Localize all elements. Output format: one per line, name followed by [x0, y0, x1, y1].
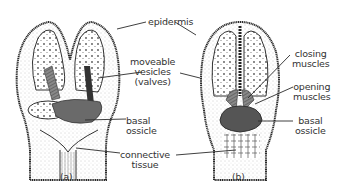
- label-closing-muscles-line2: muscles: [292, 59, 329, 69]
- caption-a: (a): [60, 172, 73, 182]
- panel-b-drawing: [201, 22, 279, 180]
- label-basal-ossicle-b-line2: ossicle: [295, 126, 326, 136]
- label-moveable-vesicles: moveable vesicles (valves): [130, 57, 175, 87]
- label-opening-muscles-line2: muscles: [293, 92, 330, 102]
- label-basal-ossicle-b: basal ossicle: [295, 116, 326, 136]
- pedicellaria-diagram: [0, 0, 340, 191]
- label-connective-tissue: connective tissue: [120, 150, 170, 170]
- label-closing-muscles: closing muscles: [292, 49, 329, 69]
- label-connective-tissue-line2: tissue: [120, 160, 170, 170]
- panel-a-drawing: [17, 22, 120, 180]
- label-basal-ossicle-a-line2: ossicle: [126, 126, 157, 136]
- label-moveable-vesicles-line3: (valves): [130, 77, 175, 87]
- label-epidermis: epidermis: [148, 17, 193, 27]
- label-opening-muscles: opening muscles: [293, 82, 330, 102]
- label-basal-ossicle-a: basal ossicle: [126, 116, 157, 136]
- caption-b: (b): [232, 172, 245, 182]
